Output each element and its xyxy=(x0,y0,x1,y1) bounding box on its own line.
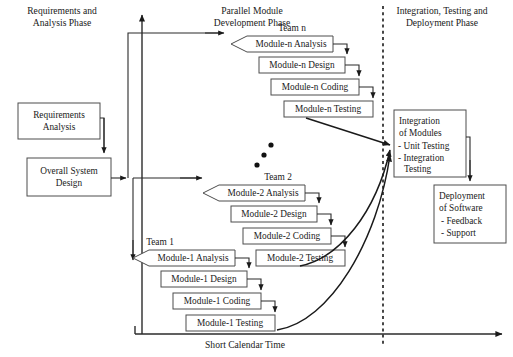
module-2-design-label: Module-2 Design xyxy=(241,209,307,219)
connector-1-coding-testing xyxy=(261,301,275,312)
integration-bullet-testing: Testing xyxy=(404,164,432,174)
phase-integration-line2: Deployment Phase xyxy=(406,17,478,28)
deployment-line2: of Software xyxy=(439,203,483,213)
ellipsis-dot-middle xyxy=(261,152,266,157)
connector-2-design-coding xyxy=(317,214,331,225)
lifecycle-diagram: Requirements and Analysis Phase Parallel… xyxy=(0,0,513,357)
team-n-label: Team n xyxy=(278,23,306,33)
module-n-analysis-label: Module-n Analysis xyxy=(255,39,326,49)
requirements-analysis-box[interactable]: Requirements Analysis xyxy=(18,103,100,139)
ellipsis-dot-top xyxy=(268,142,273,147)
module-1-analysis-step[interactable]: Module-1 Analysis xyxy=(133,250,235,266)
integration-line2: of Modules xyxy=(399,128,442,138)
deployment-bullet-support: - Support xyxy=(441,228,476,238)
overall-system-design-box[interactable]: Overall System Design xyxy=(27,158,111,196)
connector-req-to-design xyxy=(100,118,104,152)
connector-n-coding-testing xyxy=(359,87,373,98)
module-n-design-label: Module-n Design xyxy=(269,60,335,70)
module-2-analysis-label: Module-2 Analysis xyxy=(227,188,298,198)
module-n-testing-step[interactable]: Module-n Testing xyxy=(284,101,373,117)
arrow-team-n-to-integration xyxy=(306,118,390,145)
module-n-analysis-step[interactable]: Module-n Analysis xyxy=(231,36,333,52)
module-2-coding-label: Module-2 Coding xyxy=(254,231,321,241)
integration-bullet-integration: - Integration xyxy=(398,153,445,163)
axis-label: Short Calendar Time xyxy=(205,339,285,350)
phase-requirements-line2: Analysis Phase xyxy=(33,17,91,28)
integration-of-modules-box[interactable]: Integration of Modules - Unit Testing - … xyxy=(394,110,466,177)
module-n-coding-label: Module-n Coding xyxy=(282,82,349,92)
phase-integration-line1: Integration, Testing and xyxy=(396,5,487,16)
integration-line1: Integration xyxy=(399,116,440,126)
team-1-label: Team 1 xyxy=(146,237,174,247)
phase-heading-requirements: Requirements and Analysis Phase xyxy=(27,5,97,28)
module-2-testing-step[interactable]: Module-2 Testing xyxy=(256,250,345,266)
phase-requirements-line1: Requirements and xyxy=(27,5,97,16)
module-1-coding-step[interactable]: Module-1 Coding xyxy=(173,293,261,309)
module-2-design-step[interactable]: Module-2 Design xyxy=(231,206,317,222)
module-2-coding-step[interactable]: Module-2 Coding xyxy=(243,228,331,244)
connector-1-analysis-design xyxy=(235,258,249,268)
requirements-analysis-line1: Requirements xyxy=(33,110,85,120)
diagram-canvas: Requirements and Analysis Phase Parallel… xyxy=(0,0,513,357)
module-1-design-step[interactable]: Module-1 Design xyxy=(161,271,247,287)
module-n-testing-label: Module-n Testing xyxy=(295,104,361,114)
module-2-analysis-step[interactable]: Module-2 Analysis xyxy=(203,185,305,201)
overall-system-design-line2: Design xyxy=(56,178,83,188)
ellipsis-dot-bottom xyxy=(254,162,259,167)
deployment-line1: Deployment xyxy=(439,191,485,201)
module-1-design-label: Module-1 Design xyxy=(171,274,237,284)
phase-parallel-line1: Parallel Module xyxy=(221,5,283,16)
team-2-label: Team 2 xyxy=(264,172,292,182)
deployment-of-software-box[interactable]: Deployment of Software - Feedback - Supp… xyxy=(434,185,506,243)
deployment-bullet-feedback: - Feedback xyxy=(441,216,482,226)
connector-n-analysis-design xyxy=(333,44,347,54)
connector-n-design-coding xyxy=(345,65,359,76)
phase-heading-integration: Integration, Testing and Deployment Phas… xyxy=(396,5,487,28)
module-n-design-step[interactable]: Module-n Design xyxy=(259,57,345,73)
integration-bullet-unit-testing: - Unit Testing xyxy=(398,141,450,151)
module-n-coding-step[interactable]: Module-n Coding xyxy=(271,79,359,95)
connector-2-analysis-design xyxy=(305,193,319,203)
module-1-coding-label: Module-1 Coding xyxy=(184,296,251,306)
module-1-testing-step[interactable]: Module-1 Testing xyxy=(186,315,275,331)
module-1-testing-label: Module-1 Testing xyxy=(197,318,263,328)
requirements-analysis-line2: Analysis xyxy=(43,122,76,132)
connector-1-design-coding xyxy=(247,279,261,290)
module-2-testing-label: Module-2 Testing xyxy=(267,253,333,263)
connector-integration-deployment xyxy=(466,137,470,178)
module-1-analysis-label: Module-1 Analysis xyxy=(157,253,228,263)
overall-system-design-line1: Overall System xyxy=(40,166,98,176)
